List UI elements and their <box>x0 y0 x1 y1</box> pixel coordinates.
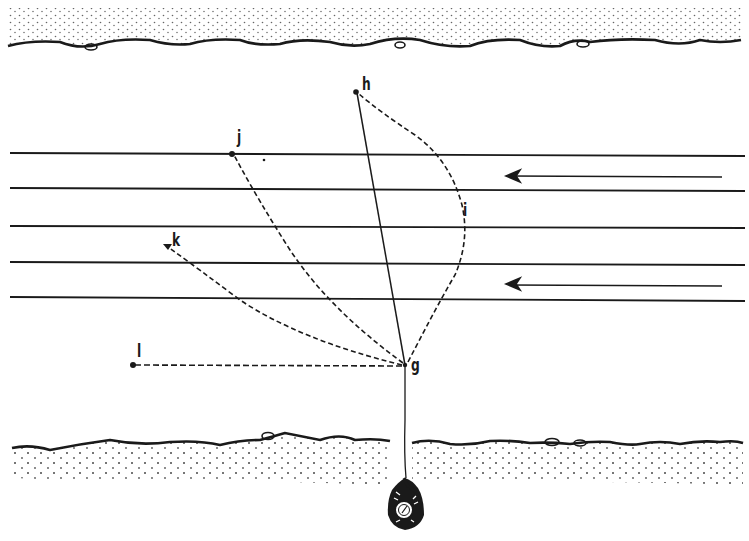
point-h-label: h <box>362 76 371 93</box>
current-arrow-icon <box>506 278 722 290</box>
point-i-label: i <box>463 202 467 219</box>
water-line <box>10 153 745 156</box>
water-lines <box>10 153 745 301</box>
rope <box>405 367 406 478</box>
point-j-label: j <box>237 129 241 146</box>
current-arrow-icon <box>506 170 722 182</box>
far-bank <box>8 8 741 50</box>
path-g-h <box>357 93 405 365</box>
point-g-label: g <box>411 357 420 374</box>
diagram-canvas <box>0 0 749 541</box>
path-g-l <box>135 365 402 366</box>
water-line <box>10 262 745 265</box>
point-k-marker <box>163 244 172 250</box>
water-line <box>10 188 745 191</box>
point-markers <box>130 89 407 368</box>
current-arrows <box>506 170 722 290</box>
point-h-marker <box>353 89 359 95</box>
point-j-marker <box>229 151 235 157</box>
paths <box>135 93 465 478</box>
point-k-label: k <box>172 232 180 249</box>
stray-dot <box>263 159 266 162</box>
path-g-j <box>234 155 403 363</box>
swimmer-icon <box>388 478 424 530</box>
point-l-marker <box>130 362 136 368</box>
pebble-icon <box>395 42 405 48</box>
river-crossing-diagram: h i j k l g <box>0 0 749 541</box>
point-l-label: l <box>137 343 141 360</box>
water-line <box>10 226 745 228</box>
path-g-k <box>168 247 402 365</box>
water-line <box>10 297 745 301</box>
point-g-marker <box>403 363 407 367</box>
near-bank <box>12 433 743 486</box>
